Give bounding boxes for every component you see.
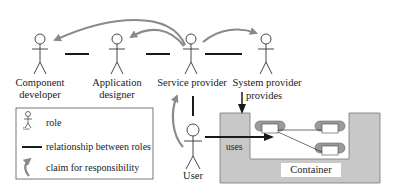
component-connectors: [278, 130, 322, 152]
label-line: User: [178, 170, 208, 182]
label-line: Application: [87, 77, 147, 89]
label-system-provider: System provider: [230, 77, 304, 89]
label-line: designer: [87, 89, 147, 101]
component-2: [315, 121, 345, 133]
component-1: [255, 121, 285, 133]
label-line: Component: [10, 77, 70, 89]
legend-mini-figure-caption: User: [23, 127, 30, 131]
legend-claim-label: claim for responsibility: [46, 162, 139, 174]
legend-relationship-label: relationship between roles: [46, 141, 151, 153]
role-figure-application-designer: [109, 34, 125, 74]
component-3: [315, 143, 345, 155]
label-service-provider: Service provider: [156, 77, 228, 89]
role-figure-system-provider: [258, 34, 274, 74]
label-component-developer: Component developer: [10, 77, 70, 101]
label-line: Service provider: [156, 77, 228, 89]
role-figure-service-provider: [183, 34, 199, 74]
label-line: developer: [10, 89, 70, 101]
label-user: User: [178, 170, 208, 182]
role-figure-component-developer: [32, 34, 48, 74]
legend-role-label: role: [46, 117, 62, 129]
label-provides: provides: [246, 90, 282, 102]
label-container: Container: [281, 164, 341, 176]
label-line: System provider: [230, 77, 304, 89]
label-application-designer: Application designer: [87, 77, 147, 101]
label-uses: uses: [226, 141, 242, 153]
role-figure-user: [184, 124, 202, 169]
